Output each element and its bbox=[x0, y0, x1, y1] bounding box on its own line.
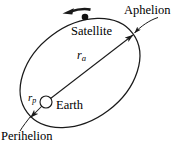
earth-label: Earth bbox=[56, 99, 83, 112]
orbit-direction-arrowhead-icon bbox=[63, 8, 74, 14]
earth-circle bbox=[40, 96, 52, 108]
radius-vector-ra bbox=[46, 35, 133, 102]
orbit-svg-canvas bbox=[0, 0, 174, 145]
ra-math-label: ra bbox=[77, 49, 86, 63]
orbital-diagram-figure: Aphelion Satellite Earth Perihelion ra r… bbox=[0, 0, 174, 145]
rp-subscript: p bbox=[32, 96, 36, 105]
ra-subscript: a bbox=[82, 53, 86, 63]
aphelion-label: Aphelion bbox=[124, 4, 171, 17]
satellite-label: Satellite bbox=[71, 25, 112, 38]
aphelion-leader-line bbox=[135, 18, 159, 34]
satellite-dot bbox=[82, 14, 89, 21]
rp-math-label: rp bbox=[28, 92, 36, 105]
perihelion-label: Perihelion bbox=[1, 130, 52, 143]
orbit-ellipse-path bbox=[0, 0, 161, 145]
